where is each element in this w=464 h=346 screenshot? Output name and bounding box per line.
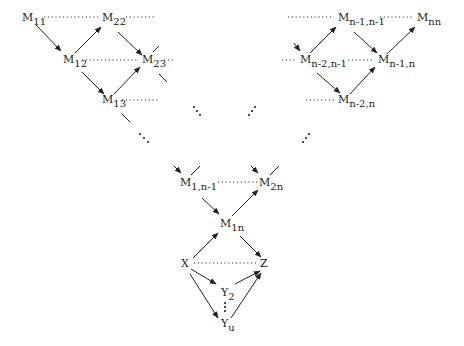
node-M12: M12 — [63, 53, 87, 69]
node-Yu: Yu — [220, 317, 235, 333]
node-M23: M23 — [142, 53, 166, 69]
node-Mn-2n: Mn-2,n — [338, 93, 376, 109]
arrows-left — [36, 25, 167, 122]
node-Mn-1n-1: Mn-1,n-1 — [338, 11, 385, 27]
ellipsis-dots — [139, 106, 310, 312]
lattice-diagram: M11 M22 M12 M23 M13 Mn-1,n-1 Mnn Mn-2,n-… — [0, 0, 464, 346]
node-Mn-2n-1: Mn-2,n-1 — [300, 53, 347, 69]
node-M2n: M2n — [259, 176, 284, 192]
node-M11: M11 — [22, 11, 46, 27]
node-Mn-1n: Mn-1,n — [378, 53, 416, 69]
node-M13: M13 — [102, 93, 126, 109]
node-Mnn: Mnn — [417, 11, 442, 27]
node-labels: M11 M22 M12 M23 M13 Mn-1,n-1 Mnn Mn-2,n-… — [22, 11, 442, 333]
node-M22: M22 — [102, 11, 126, 27]
node-Z: Z — [260, 257, 268, 270]
node-Y2: Y2 — [220, 286, 235, 302]
node-M1n-1: M1,n-1 — [180, 176, 217, 192]
node-X: X — [181, 257, 189, 270]
node-M1n: M1n — [220, 217, 245, 233]
